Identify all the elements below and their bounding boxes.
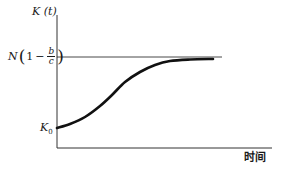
y-axis-label: K (t) xyxy=(32,6,57,17)
asymptote-prefix: N xyxy=(8,51,18,62)
growth-curve xyxy=(57,59,213,128)
asymptote-label: N ( 1 − b c ) xyxy=(8,47,65,67)
k0-label: K0 xyxy=(40,122,53,136)
asymptote-one: 1 xyxy=(26,51,33,62)
x-axis-label: 时间 xyxy=(244,152,266,163)
right-paren: ) xyxy=(57,48,64,65)
k0-base: K xyxy=(40,121,48,134)
fraction-denominator: c xyxy=(49,57,54,66)
left-paren: ( xyxy=(19,48,26,65)
logistic-chart xyxy=(0,0,285,174)
asymptote-minus: − xyxy=(35,51,44,62)
k0-subscript: 0 xyxy=(48,128,52,136)
asymptote-fraction: b c xyxy=(47,47,55,67)
